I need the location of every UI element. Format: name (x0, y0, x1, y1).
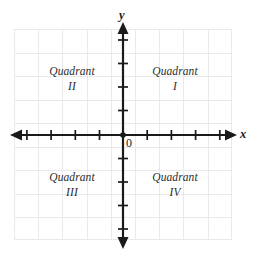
x-axis-left-arrowhead (10, 130, 22, 141)
y-axis-down-arrowhead (118, 237, 129, 249)
quadrant-4-label: Quadrant IV (135, 170, 215, 200)
quadrant-3-word: Quadrant (32, 170, 112, 185)
quadrant-1-numeral: I (135, 79, 215, 94)
y-axis-up-arrowhead (118, 22, 129, 34)
x-axis-right-arrowhead (225, 130, 237, 141)
quadrant-3-label: Quadrant III (32, 170, 112, 200)
quadrant-3-numeral: III (32, 185, 112, 200)
quadrant-4-numeral: IV (135, 185, 215, 200)
quadrant-2-word: Quadrant (32, 64, 112, 79)
quadrant-2-label: Quadrant II (32, 64, 112, 94)
quadrant-4-word: Quadrant (135, 170, 215, 185)
origin-point (120, 132, 126, 138)
origin-label: 0 (126, 136, 132, 151)
quadrant-1-word: Quadrant (135, 64, 215, 79)
quadrant-2-numeral: II (32, 79, 112, 94)
axes-layer (0, 0, 255, 254)
coordinate-plane-figure: x y 0 Quadrant I Quadrant II Quadrant II… (0, 0, 255, 254)
x-axis-label: x (240, 127, 246, 142)
y-axis-label: y (119, 8, 125, 23)
quadrant-1-label: Quadrant I (135, 64, 215, 94)
